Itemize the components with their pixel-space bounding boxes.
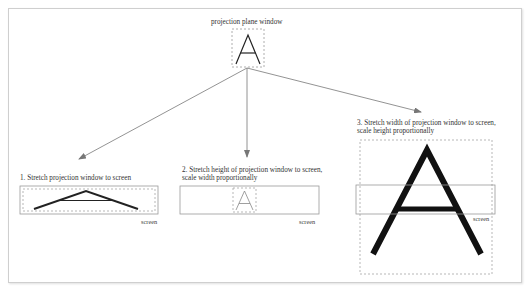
arrows	[79, 68, 421, 159]
title-label: projection plane window	[211, 18, 282, 27]
projection-window-top	[232, 29, 264, 67]
letter-a-small-icon	[236, 191, 253, 210]
panel-3-diagram	[356, 140, 495, 274]
letter-a-large-icon	[373, 150, 481, 254]
panel-1-caption: 1. Stretch projection window to screen	[20, 174, 131, 183]
panel-3-caption-line-2: scale height proportionally	[357, 127, 434, 136]
diagram-canvas	[0, 0, 528, 290]
arrow-to-panel-3	[247, 68, 421, 112]
panel-1-screen-label: screen	[141, 218, 157, 225]
screen-rect-2	[180, 186, 319, 214]
panel-2-diagram	[180, 186, 319, 214]
arrow-to-panel-1	[79, 68, 247, 159]
panel-2-caption-line-2: scale width proportionally	[182, 174, 257, 183]
letter-a-icon	[236, 35, 260, 64]
panel-2-screen-label: screen	[299, 218, 315, 225]
panel-3-screen-label: screen	[473, 215, 489, 222]
panel-1-diagram	[20, 186, 158, 214]
letter-a-stretched-icon	[34, 191, 138, 209]
